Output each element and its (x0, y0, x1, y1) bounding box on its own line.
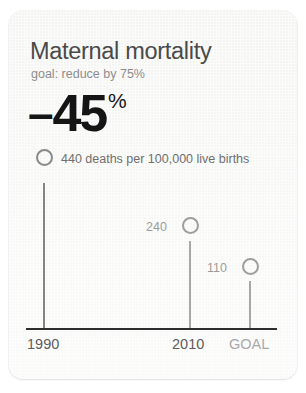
chart-marker-2010 (182, 217, 199, 234)
chart-point-label-1990: 440 deaths per 100,000 live births (61, 152, 249, 166)
lollipop-chart: 440 deaths per 100,000 live births 240 1… (9, 11, 297, 379)
card-inner: Maternal mortality goal: reduce by 75% –… (9, 11, 297, 379)
axis-tick-1990: 1990 (27, 336, 59, 353)
chart-stem-1990 (43, 183, 45, 328)
chart-marker-goal (242, 258, 259, 275)
chart-axis-line (26, 328, 277, 330)
axis-tick-goal: GOAL (229, 336, 269, 353)
infographic-canvas: Maternal mortality goal: reduce by 75% –… (0, 0, 306, 393)
chart-stem-2010 (189, 241, 191, 328)
chart-marker-1990 (36, 149, 53, 166)
chart-point-label-2010: 240 (146, 220, 167, 234)
chart-point-label-goal: 110 (207, 261, 227, 275)
chart-stem-goal (249, 281, 251, 328)
axis-tick-2010: 2010 (172, 336, 204, 353)
stat-card: Maternal mortality goal: reduce by 75% –… (9, 11, 297, 379)
